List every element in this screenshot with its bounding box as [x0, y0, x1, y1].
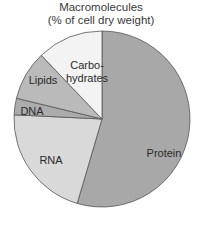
slice-label-dna: DNA — [20, 105, 44, 117]
pie-chart: ProteinRNADNALipidsCarbo-hydrates — [0, 0, 202, 226]
slice-label-protein: Protein — [147, 147, 182, 159]
slice-label-rna: RNA — [39, 154, 63, 166]
slice-label-carbohydrates: hydrates — [66, 72, 109, 84]
slice-label-lipids: Lipids — [29, 74, 58, 86]
slice-label-carbohydrates: Carbo- — [70, 59, 104, 71]
